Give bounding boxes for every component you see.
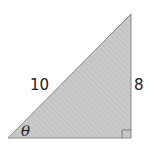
triangle-shape [8, 14, 131, 138]
hypotenuse-label: 10 [30, 78, 49, 93]
opposite-side-label: 8 [134, 78, 144, 93]
angle-theta-label: θ [21, 124, 30, 139]
